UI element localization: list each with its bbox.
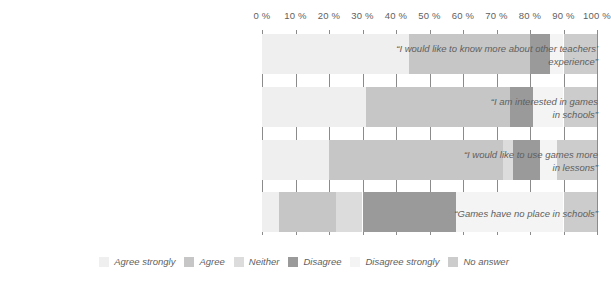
legend-item[interactable]: No answer bbox=[448, 256, 508, 267]
category-label-line: experience” bbox=[368, 55, 598, 68]
x-tick-label-20: 20 % bbox=[318, 10, 340, 21]
category-label: “I would like to know more about other t… bbox=[368, 42, 608, 68]
bar-segment[interactable] bbox=[262, 140, 329, 180]
category-label-line: “I am interested in games bbox=[368, 95, 598, 108]
x-tick-label-50: 50 % bbox=[418, 10, 440, 21]
bar-segment[interactable] bbox=[262, 87, 366, 127]
category-label-line: “Games have no place in schools” bbox=[368, 207, 598, 220]
x-tick-label-30: 30 % bbox=[351, 10, 373, 21]
legend-item[interactable]: Neither bbox=[234, 256, 280, 267]
category-label-line: “I would like to know more about other t… bbox=[368, 42, 598, 55]
legend-label: Neither bbox=[249, 256, 280, 267]
category-label-line: in lessons” bbox=[368, 161, 598, 174]
category-label-line: in schools” bbox=[368, 108, 598, 121]
legend-item[interactable]: Disagree strongly bbox=[350, 256, 439, 267]
category-label: “Games have no place in schools” bbox=[368, 207, 608, 220]
category-label-line: “I would like to use games more bbox=[368, 148, 598, 161]
legend-swatch-icon bbox=[184, 257, 194, 267]
category-label: “I would like to use games morein lesson… bbox=[368, 148, 608, 174]
x-axis-tick-labels: 0 %10 %20 %30 %40 %50 %60 %70 %80 %90 %1… bbox=[0, 10, 608, 26]
legend-label: Agree bbox=[199, 256, 224, 267]
legend-item[interactable]: Agree bbox=[184, 256, 224, 267]
x-tick-label-90: 90 % bbox=[552, 10, 574, 21]
legend-swatch-icon bbox=[448, 257, 458, 267]
legend-item[interactable]: Disagree bbox=[288, 256, 341, 267]
legend-swatch-icon bbox=[99, 257, 109, 267]
x-tick-label-40: 40 % bbox=[385, 10, 407, 21]
legend-item[interactable]: Agree strongly bbox=[99, 256, 175, 267]
x-tick-label-10: 10 % bbox=[284, 10, 306, 21]
category-label: “I am interested in gamesin schools” bbox=[368, 95, 608, 121]
x-tick-label-70: 70 % bbox=[485, 10, 507, 21]
x-tick-label-80: 80 % bbox=[519, 10, 541, 21]
legend-label: No answer bbox=[463, 256, 508, 267]
x-tick-label-60: 60 % bbox=[452, 10, 474, 21]
legend-swatch-icon bbox=[288, 257, 298, 267]
x-tick-label-100: 100 % bbox=[583, 10, 611, 21]
legend-swatch-icon bbox=[350, 257, 360, 267]
legend-label: Disagree bbox=[303, 256, 341, 267]
chart-legend: Agree stronglyAgreeNeitherDisagreeDisagr… bbox=[0, 256, 608, 267]
legend-label: Disagree strongly bbox=[365, 256, 439, 267]
legend-label: Agree strongly bbox=[114, 256, 175, 267]
bar-segment[interactable] bbox=[262, 192, 279, 232]
x-tick-label-0: 0 % bbox=[254, 10, 271, 21]
legend-swatch-icon bbox=[234, 257, 244, 267]
bar-segment[interactable] bbox=[279, 192, 336, 232]
bar-segment[interactable] bbox=[336, 192, 363, 232]
